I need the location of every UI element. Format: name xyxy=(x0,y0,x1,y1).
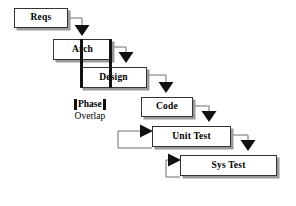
phase-box-unit-test[interactable]: Unit Test xyxy=(152,126,231,147)
feedback-arrow-unit-test xyxy=(118,125,153,149)
phase-overlap-legend: Phase Overlap xyxy=(74,99,106,122)
phase-label-design: Design xyxy=(99,73,128,83)
phase-box-code[interactable]: Code xyxy=(141,97,193,117)
waterfall-diagram: Reqs Arch Design Code Unit Test Sys Test… xyxy=(0,0,296,206)
flow-arrow-code-to-unit-test xyxy=(193,106,217,122)
overlap-bar-right xyxy=(109,39,112,88)
phase-box-design[interactable]: Design xyxy=(80,67,147,88)
flow-arrow-reqs-to-arch xyxy=(68,18,90,36)
phase-label-code: Code xyxy=(156,102,178,112)
flow-arrow-unit-test-to-sys-test xyxy=(231,135,256,151)
legend-bar-left-icon xyxy=(74,99,77,110)
phase-label-reqs: Reqs xyxy=(31,13,52,23)
legend-label-overlap: Overlap xyxy=(74,111,106,122)
legend-bar-right-icon xyxy=(103,99,106,110)
phase-box-sys-test[interactable]: Sys Test xyxy=(180,155,277,176)
phase-label-sys-test: Sys Test xyxy=(211,161,245,171)
overlap-bar-left xyxy=(80,39,83,88)
feedback-arrow-sys-test xyxy=(166,154,181,178)
flow-arrow-arch-to-design xyxy=(112,47,134,63)
phase-label-unit-test: Unit Test xyxy=(172,132,211,142)
flow-arrow-design-to-code xyxy=(147,75,174,93)
phase-box-reqs[interactable]: Reqs xyxy=(14,8,68,28)
legend-row-phase: Phase xyxy=(74,99,106,110)
legend-label-phase: Phase xyxy=(78,99,102,110)
